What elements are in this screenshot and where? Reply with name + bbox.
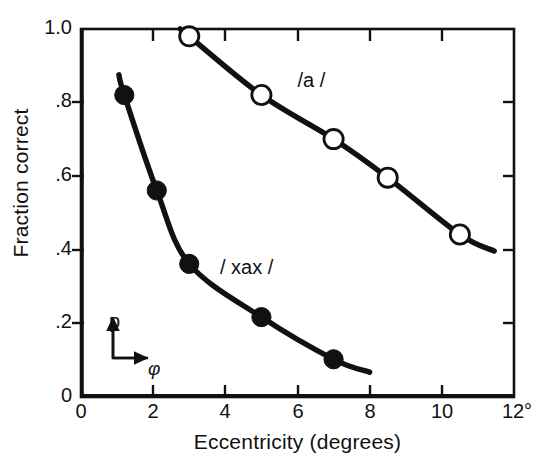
data-point (252, 308, 271, 327)
data-point (450, 225, 469, 244)
series-curve (119, 75, 370, 372)
data-point (115, 85, 134, 104)
data-point (180, 27, 199, 46)
data-point (324, 130, 343, 149)
data-point (252, 85, 271, 104)
data-point (324, 350, 343, 369)
figure: Fraction correct Eccentricity (degrees) … (0, 0, 551, 470)
series-xax (115, 75, 370, 372)
series-a (180, 27, 495, 251)
data-point (180, 254, 199, 273)
inset-axis-indicator (113, 317, 148, 358)
data-point (378, 168, 397, 187)
data-point (147, 181, 166, 200)
plot-canvas (0, 0, 551, 470)
axis-ticks (72, 29, 514, 396)
